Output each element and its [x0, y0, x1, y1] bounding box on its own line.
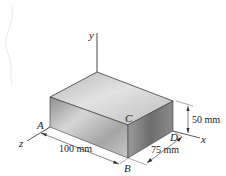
arrowhead	[41, 133, 47, 137]
dimension-75-extension-b	[128, 158, 147, 165]
arrowhead	[186, 106, 189, 111]
point-c-label: C	[125, 112, 133, 124]
block-diagram: y x z A B C D 100 mm 75 mm 50 mm	[0, 0, 226, 176]
z-axis-label: z	[18, 137, 24, 149]
arrowhead	[113, 161, 119, 164]
point-b-label: B	[124, 162, 131, 174]
point-d-label: D	[169, 131, 178, 143]
dimension-50-extension-top	[176, 101, 193, 106]
arrowhead	[186, 128, 189, 133]
dimension-100-label: 100 mm	[59, 143, 92, 154]
y-axis-label: y	[88, 29, 94, 41]
dimension-75-label: 75 mm	[151, 144, 179, 155]
dimension-50-label: 50 mm	[192, 114, 220, 125]
arrowhead	[147, 158, 152, 163]
point-a-label: A	[36, 119, 44, 131]
x-axis-label: x	[200, 133, 206, 145]
scan-artifact-line	[6, 5, 13, 85]
